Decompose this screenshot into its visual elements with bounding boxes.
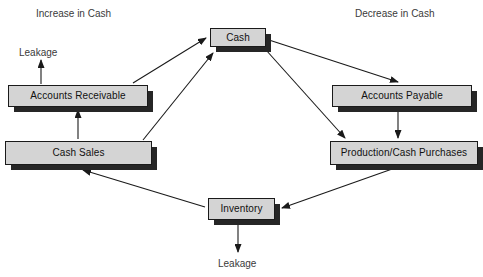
node-cash-sales-label: Cash Sales [52,148,104,158]
caption-increase-in-cash: Increase in Cash [36,9,111,19]
edge-cash-sales-to-cash [143,53,213,140]
node-cash[interactable]: Cash [210,28,266,47]
node-accounts-receivable-label: Accounts Receivable [30,91,125,101]
node-production-cash-purchases-label: Production/Cash Purchases [341,148,467,158]
node-accounts-receivable[interactable]: Accounts Receivable [8,85,148,107]
label-leakage-top: Leakage [19,48,57,58]
node-production-cash-purchases[interactable]: Production/Cash Purchases [330,141,478,165]
label-leakage-bottom: Leakage [218,259,256,269]
edge-production-to-inventory [282,168,395,208]
node-inventory[interactable]: Inventory [208,198,275,220]
node-cash-label: Cash [226,33,250,43]
cash-flow-diagram: Increase in Cash Decrease in Cash Leakag… [0,0,483,277]
node-cash-sales[interactable]: Cash Sales [5,141,152,165]
edge-accounts-receivable-to-cash [133,38,206,83]
caption-decrease-in-cash: Decrease in Cash [355,9,434,19]
node-accounts-payable[interactable]: Accounts Payable [332,85,472,107]
node-inventory-label: Inventory [220,204,262,214]
edge-inventory-to-cash-sales [83,170,205,207]
node-accounts-payable-label: Accounts Payable [361,91,443,101]
